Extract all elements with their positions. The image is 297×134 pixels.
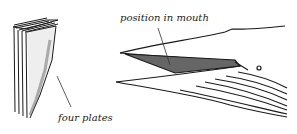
whale-mouth-drawing — [116, 26, 287, 117]
baleen-diagram: four plates position in mouth — [0, 0, 297, 134]
label-position-in-mouth: position in mouth — [120, 12, 209, 23]
four-plates-drawing — [13, 18, 58, 118]
label-four-plates: four plates — [58, 112, 113, 123]
